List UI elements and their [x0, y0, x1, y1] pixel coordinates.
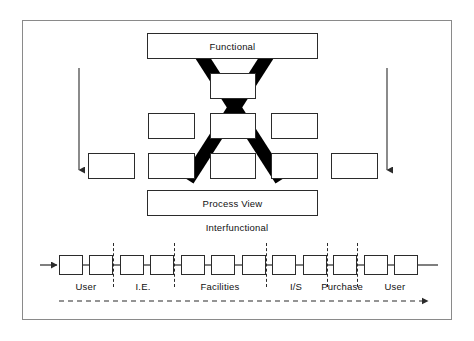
hierarchy-node — [271, 113, 318, 139]
process-step-box — [59, 255, 83, 275]
process-step-box — [394, 255, 418, 275]
process-step-box — [120, 255, 144, 275]
hierarchy-node — [210, 73, 256, 99]
process-step-box — [181, 255, 205, 275]
lane-label-facilities: Facilities — [180, 281, 260, 292]
hierarchy-node — [148, 113, 195, 139]
process-view-box: Process View — [147, 190, 318, 216]
lane-label-ie: I.E. — [103, 281, 183, 292]
process-step-box — [150, 255, 174, 275]
process-step-box — [89, 255, 113, 275]
hierarchy-node — [271, 153, 318, 179]
diagram-canvas: Functional Process View Interfunctional … — [0, 0, 474, 341]
interfunctional-caption: Interfunctional — [0, 222, 474, 233]
process-step-box — [364, 255, 388, 275]
functional-title-label: Functional — [210, 41, 256, 52]
process-view-label: Process View — [203, 198, 263, 209]
functional-title-box: Functional — [147, 33, 318, 59]
process-step-box — [211, 255, 235, 275]
process-step-box — [333, 255, 357, 275]
lane-label-user-right: User — [355, 281, 435, 292]
process-step-box — [272, 255, 296, 275]
hierarchy-node — [148, 153, 195, 179]
hierarchy-node — [210, 113, 256, 139]
hierarchy-node — [88, 153, 135, 179]
process-step-box — [303, 255, 327, 275]
hierarchy-node — [210, 153, 256, 179]
hierarchy-node — [331, 153, 378, 179]
process-step-box — [242, 255, 266, 275]
